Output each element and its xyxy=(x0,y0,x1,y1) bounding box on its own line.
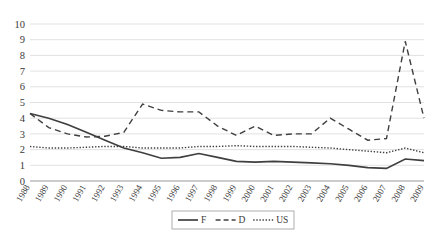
x-tick-label: 1998 xyxy=(202,183,220,204)
x-tick-label: 2006 xyxy=(352,183,370,204)
x-tick-label: 2004 xyxy=(314,183,332,204)
y-tick-label: 8 xyxy=(20,50,25,61)
legend-label-us: US xyxy=(276,215,288,225)
chart-legend: FDUS xyxy=(172,211,294,229)
y-tick-label: 6 xyxy=(20,81,25,92)
y-tick-label: 2 xyxy=(20,144,25,155)
x-tick-label: 1997 xyxy=(183,183,201,204)
x-tick-label: 2007 xyxy=(371,183,389,204)
y-tick-label: 4 xyxy=(20,113,26,124)
x-tick-label: 2003 xyxy=(296,183,314,204)
x-tick-label: 2009 xyxy=(408,183,426,204)
x-tick-label: 1996 xyxy=(164,183,182,204)
x-tick-label: 1989 xyxy=(33,183,51,204)
gridlines-group xyxy=(30,24,424,181)
y-axis-tick-labels: 012345678910 xyxy=(15,19,26,187)
x-tick-label: 1991 xyxy=(70,183,88,204)
line-chart: 012345678910 198819891990199119921993199… xyxy=(0,0,436,238)
legend-label-d: D xyxy=(239,215,246,225)
series-line-d xyxy=(30,41,424,140)
x-tick-label: 2002 xyxy=(277,183,295,204)
x-tick-label: 1993 xyxy=(108,183,126,204)
x-tick-label: 1992 xyxy=(89,183,107,204)
x-tick-label: 1999 xyxy=(220,183,238,204)
y-tick-label: 3 xyxy=(20,129,25,140)
x-tick-label: 1995 xyxy=(145,183,163,204)
x-tick-label: 1988 xyxy=(14,183,32,204)
x-tick-label: 2008 xyxy=(389,183,407,204)
x-tick-label: 1994 xyxy=(127,183,145,204)
y-tick-label: 10 xyxy=(15,19,26,30)
x-axis-tick-labels: 1988198919901991199219931994199519961997… xyxy=(14,183,426,204)
legend-label-f: F xyxy=(201,215,206,225)
series-line-f xyxy=(30,113,424,168)
x-tick-label: 2000 xyxy=(239,183,257,204)
x-tick-label: 2005 xyxy=(333,183,351,204)
y-tick-label: 9 xyxy=(20,34,25,45)
x-tick-label: 2001 xyxy=(258,183,276,204)
x-tick-label: 1990 xyxy=(52,183,70,204)
y-tick-label: 1 xyxy=(20,160,25,171)
chart-canvas: 012345678910 198819891990199119921993199… xyxy=(0,0,436,238)
y-tick-label: 7 xyxy=(20,66,25,77)
y-tick-label: 5 xyxy=(20,97,25,108)
